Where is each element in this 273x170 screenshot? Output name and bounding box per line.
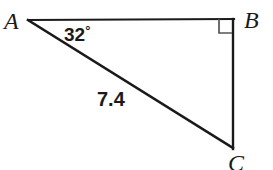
vertex-label-c: C xyxy=(228,151,244,170)
side-length-label-ac: 7.4 xyxy=(97,89,125,109)
angle-measure-label-a: 32° xyxy=(64,25,90,44)
triangle-drawing xyxy=(0,0,273,170)
vertex-label-a: A xyxy=(4,9,19,33)
vertex-label-b: B xyxy=(244,8,259,32)
geometry-figure: A B C 32° 7.4 xyxy=(0,0,273,170)
right-angle-marker-icon xyxy=(219,19,232,33)
degree-symbol-icon: ° xyxy=(85,23,90,38)
side-ab-line xyxy=(28,19,234,20)
angle-measure-value: 32 xyxy=(64,24,85,45)
side-ac-hypotenuse-line xyxy=(28,20,233,148)
